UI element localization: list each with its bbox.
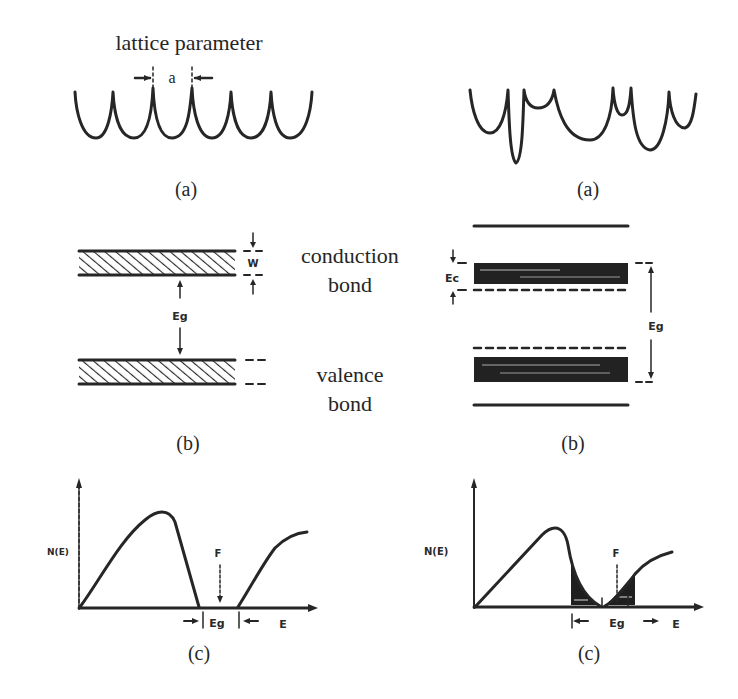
x-axis-arrow-icon [308, 604, 318, 612]
caption-left-a: (a) [175, 178, 197, 201]
arrow-down-icon [648, 372, 654, 379]
arrow-right-icon [144, 75, 151, 81]
caption-left-c: (c) [188, 642, 210, 665]
left-panel-c: N(E) F Eg E (c) [47, 478, 318, 665]
fermi-label-left: F [215, 548, 222, 559]
valence-tail-states [571, 560, 597, 605]
left-panel-a: lattice parameter a (a) [75, 30, 312, 201]
disordered-potential-curve [470, 88, 696, 163]
dos-curve-left [80, 512, 307, 607]
lattice-spacing-indicator: a [135, 67, 212, 95]
x-axis-arrow-icon [694, 603, 704, 611]
fermi-arrow-icon [217, 596, 223, 603]
conduction-label-line1: conduction [301, 243, 399, 268]
y-axis-label-left: N(E) [47, 547, 69, 557]
caption-right-a: (a) [577, 178, 599, 201]
tail-width-indicator: Ec [445, 250, 466, 304]
lattice-spacing-symbol: a [168, 69, 175, 86]
right-panel-c: N(E) F Eg E (c) [424, 478, 704, 665]
valence-band-amorphous [474, 357, 628, 382]
caption-left-b: (b) [176, 432, 199, 455]
gap-label-right-c: Eg [609, 617, 624, 630]
arrow-left-icon [194, 75, 201, 81]
valence-band [79, 360, 235, 384]
band-structure-figure: lattice parameter a (a) [0, 0, 738, 699]
arrow-up-icon [250, 279, 256, 285]
caption-right-c: (c) [578, 642, 600, 665]
conduction-band-amorphous [474, 263, 628, 284]
left-panel-b: W Eg conduction bond valence bond (b) [79, 233, 399, 455]
band-width-indicator: W [244, 233, 262, 294]
conduction-label-line2: bond [328, 272, 372, 297]
arrow-right-icon [652, 618, 659, 624]
x-axis-label-right: E [672, 618, 680, 631]
y-axis-arrow-icon [471, 478, 477, 488]
arrow-down-icon [177, 348, 183, 355]
arrow-up-icon [177, 280, 183, 287]
y-axis-arrow-icon [76, 478, 82, 488]
fermi-label-right: F [613, 548, 620, 559]
energy-gap-indicator: Eg [172, 280, 187, 323]
tail-label: Ec [445, 272, 459, 285]
arrow-down-icon [450, 257, 456, 263]
right-panel-b: Ec Eg (b) [445, 226, 664, 455]
right-panel-a: (a) [470, 88, 696, 201]
band-width-label: W [247, 258, 258, 269]
valence-label-line2: bond [328, 391, 372, 416]
arrow-down-icon [250, 242, 256, 248]
valence-label-line1: valence [316, 362, 383, 387]
y-axis-label-right: N(E) [424, 546, 448, 557]
x-axis-label-left: E [279, 618, 287, 631]
arrow-up-icon [450, 291, 456, 297]
caption-right-b: (b) [561, 432, 584, 455]
arrow-right-icon [192, 618, 199, 624]
conduction-band [79, 250, 235, 275]
energy-gap-indicator-right: Eg [636, 263, 664, 382]
gap-label-left-b: Eg [172, 310, 187, 323]
gap-label-right-b: Eg [648, 320, 663, 333]
periodic-potential-curve [75, 88, 312, 138]
lattice-parameter-label: lattice parameter [115, 30, 263, 55]
gap-label-left-c: Eg [209, 617, 224, 630]
